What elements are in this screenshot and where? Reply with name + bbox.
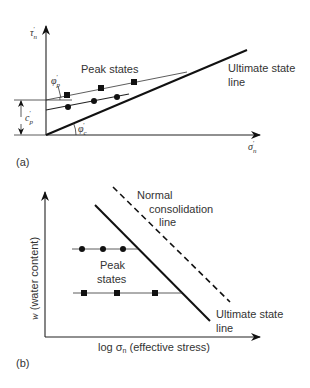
peak-angle-label: φp′ bbox=[51, 73, 61, 89]
cohesion-label: cp′ bbox=[25, 109, 33, 126]
ultimate-state-line-a bbox=[46, 50, 247, 135]
peak-markers-squares-a bbox=[64, 79, 137, 98]
water-content-axis-label: w (water content) bbox=[28, 237, 40, 320]
ultimate-state-label-a-1: Ultimate state bbox=[228, 62, 295, 74]
tau-axis-label: τn′ bbox=[30, 25, 38, 41]
panel-b-label: (b) bbox=[16, 357, 29, 369]
ncl-label-1: Normal bbox=[137, 189, 172, 201]
panel-a-label: (a) bbox=[16, 156, 29, 168]
ncl-label-3: line bbox=[159, 216, 176, 228]
peak-states-label-a: Peak states bbox=[81, 63, 139, 75]
panel-a: τn′ σn′ cp′ φp′ φc′ Peak states Ultimate… bbox=[14, 25, 295, 168]
critical-angle-arc bbox=[74, 123, 76, 135]
peak-states-label-b-1: Peak bbox=[100, 259, 126, 271]
ultimate-state-label-b-1: Ultimate state bbox=[216, 308, 283, 320]
ultimate-state-label-b-2: line bbox=[216, 322, 233, 334]
sigma-axis-label: σn′ bbox=[248, 139, 257, 155]
panel-b: w (water content) log σn (effective stre… bbox=[16, 187, 283, 369]
log-stress-axis-label: log σn (effective stress) bbox=[98, 341, 210, 354]
ultimate-state-label-a-2: line bbox=[228, 76, 245, 88]
soil-strength-diagram: τn′ σn′ cp′ φp′ φc′ Peak states Ultimate… bbox=[0, 0, 310, 388]
ncl-label-2: consolidation bbox=[149, 203, 213, 215]
peak-states-label-b-2: states bbox=[97, 273, 127, 285]
